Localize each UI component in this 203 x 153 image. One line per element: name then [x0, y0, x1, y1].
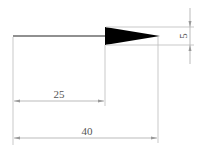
dimension-label-40: 40	[82, 125, 94, 137]
arrow-drawing: 25 40 5	[0, 0, 203, 153]
dimension-label-25: 25	[54, 88, 66, 100]
dimension-40: 40	[14, 125, 157, 140]
dimension-5: 5	[177, 8, 192, 64]
dimension-25: 25	[14, 88, 104, 103]
arrowhead	[105, 27, 160, 45]
dimension-label-5: 5	[177, 33, 189, 39]
